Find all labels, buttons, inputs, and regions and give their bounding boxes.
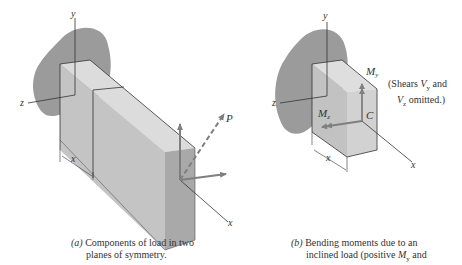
label-y-b: y: [322, 10, 328, 21]
shears-note: (Shears Vy and Vz omitted.): [388, 78, 447, 110]
label-z: z: [19, 97, 24, 108]
label-My: My: [365, 65, 379, 79]
label-x-dim-b: x: [325, 152, 331, 163]
label-C: C: [366, 109, 374, 121]
label-x: x: [227, 217, 233, 228]
label-x-dim: x: [70, 153, 76, 164]
caption-a: (a) Components of load in two planes of …: [71, 237, 194, 261]
label-z-b: z: [271, 97, 276, 108]
figure-a: y z x x P: [19, 8, 233, 250]
label-y: y: [70, 8, 76, 19]
label-P: P: [225, 112, 233, 124]
label-x-b: x: [410, 159, 416, 170]
caption-b: (b) Bending moments due to an inclined l…: [291, 237, 427, 265]
